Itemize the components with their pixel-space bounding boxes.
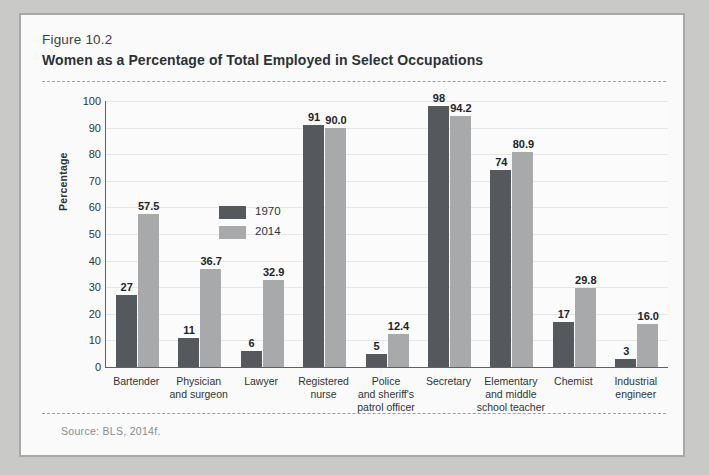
bar-2014 — [263, 280, 284, 368]
bar-value-label: 90.0 — [313, 114, 359, 126]
chart-plot: Percentage 0102030405060708090100 2757.5… — [61, 93, 671, 393]
y-axis-tick-label: 70 — [63, 175, 101, 187]
legend-swatch-1970 — [219, 206, 246, 219]
figure-number: Figure 10.2 — [42, 32, 113, 47]
y-axis-tick-label: 10 — [63, 334, 101, 346]
chart-legend: 1970 2014 — [219, 203, 309, 243]
bar-group: 9894.2 — [428, 101, 471, 367]
bar-value-label: 36.7 — [188, 255, 234, 267]
legend-swatch-2014 — [219, 226, 246, 239]
figure-panel: Figure 10.2 Women as a Percentage of Tot… — [19, 13, 685, 457]
y-axis-tick-label: 90 — [63, 122, 101, 134]
bar-value-label: 80.9 — [500, 138, 546, 150]
legend-label-1970: 1970 — [255, 205, 281, 217]
bar-1970 — [366, 354, 387, 367]
y-axis-tick-label: 80 — [63, 148, 101, 160]
bar-group: 316.0 — [615, 101, 658, 367]
y-axis-tick-label: 20 — [63, 308, 101, 320]
bar-value-label: 16.0 — [625, 310, 671, 322]
legend-item-2014: 2014 — [219, 223, 309, 243]
bar-2014 — [138, 214, 159, 367]
plot-area: 2757.51136.7632.99190.0512.49894.27480.9… — [105, 101, 668, 368]
bar-1970 — [116, 295, 137, 367]
x-axis-category-label: Industrialengineer — [588, 375, 684, 401]
y-axis-tick-label: 30 — [63, 281, 101, 293]
bar-group: 9190.0 — [303, 101, 346, 367]
divider-top — [42, 81, 666, 82]
bar-value-label: 32.9 — [251, 266, 297, 278]
bar-group: 1136.7 — [178, 101, 221, 367]
bar-1970 — [178, 338, 199, 367]
bar-group: 512.4 — [366, 101, 409, 367]
y-axis-tick-label: 40 — [63, 255, 101, 267]
bar-2014 — [637, 324, 658, 367]
y-axis-tick-label: 0 — [63, 361, 101, 373]
figure-title: Women as a Percentage of Total Employed … — [42, 52, 483, 68]
bar-value-label: 29.8 — [563, 274, 609, 286]
bar-2014 — [512, 152, 533, 367]
y-axis-ticks: 0102030405060708090100 — [61, 101, 101, 367]
bar-1970 — [241, 351, 262, 367]
bar-1970 — [490, 170, 511, 367]
y-axis-tick-label: 60 — [63, 201, 101, 213]
bar-2014 — [388, 334, 409, 367]
bar-2014 — [325, 128, 346, 367]
bar-value-label: 94.2 — [438, 102, 484, 114]
legend-label-2014: 2014 — [255, 225, 281, 237]
bar-group: 1729.8 — [553, 101, 596, 367]
bar-value-label: 12.4 — [376, 320, 422, 332]
bar-2014 — [575, 288, 596, 367]
bar-value-label: 57.5 — [126, 200, 172, 212]
bar-2014 — [450, 116, 471, 367]
bar-2014 — [200, 269, 221, 367]
bar-1970 — [615, 359, 636, 367]
y-axis-tick-label: 100 — [63, 95, 101, 107]
bar-1970 — [553, 322, 574, 367]
source-note: Source: BLS, 2014f. — [61, 425, 161, 437]
bar-1970 — [428, 106, 449, 367]
bar-group: 7480.9 — [490, 101, 533, 367]
y-axis-tick-label: 50 — [63, 228, 101, 240]
bar-group: 2757.5 — [116, 101, 159, 367]
bar-1970 — [303, 125, 324, 367]
legend-item-1970: 1970 — [219, 203, 309, 223]
